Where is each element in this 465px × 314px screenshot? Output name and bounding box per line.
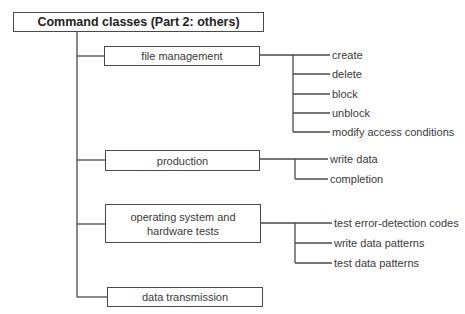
category-label-line-2: hardware tests [147, 224, 219, 238]
category-label: file management [141, 49, 222, 63]
title-box: Command classes (Part 2: others) [13, 12, 264, 32]
leaf-write-data-patterns: write data patterns [334, 237, 425, 249]
category-label: production [157, 154, 208, 168]
category-label: data transmission [142, 290, 228, 304]
category-os-hardware-tests: operating system and hardware tests [105, 204, 261, 243]
category-file-management: file management [104, 46, 260, 66]
leaf-unblock: unblock [332, 107, 370, 119]
leaf-block: block [332, 88, 358, 100]
leaf-test-error-detection-codes: test error-detection codes [334, 217, 459, 229]
category-production: production [105, 150, 260, 171]
leaf-test-data-patterns: test data patterns [334, 257, 419, 269]
category-data-transmission: data transmission [107, 287, 263, 307]
leaf-delete: delete [332, 68, 362, 80]
leaf-modify-access-conditions: modify access conditions [332, 126, 454, 138]
leaf-create: create [332, 49, 363, 61]
diagram-title: Command classes (Part 2: others) [37, 15, 239, 29]
category-label-line-1: operating system and [130, 210, 235, 224]
leaf-write-data: write data [330, 153, 378, 165]
leaf-completion: completion [330, 173, 383, 185]
